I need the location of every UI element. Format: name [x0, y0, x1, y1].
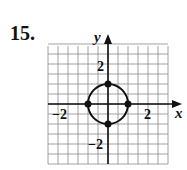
data-point — [105, 121, 112, 128]
x-axis-label: x — [174, 105, 183, 121]
y-axis-label: y — [92, 29, 101, 45]
y-axis — [104, 34, 112, 164]
data-point — [85, 101, 92, 108]
data-point — [105, 81, 112, 88]
data-point — [125, 101, 132, 108]
y-tick-label-2: 2 — [97, 59, 104, 74]
x-tick-label-neg2: −2 — [52, 107, 67, 122]
y-tick-label-neg2: −2 — [88, 137, 103, 152]
x-tick-label-2: 2 — [144, 107, 151, 122]
coordinate-plane: x y −2 2 2 −2 — [0, 0, 187, 170]
y-axis-arrow-icon — [104, 34, 112, 44]
